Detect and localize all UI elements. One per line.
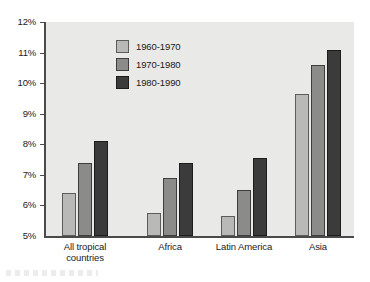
figure: 5%6%7%8%9%10%11%12% 1960-19701970-198019…: [0, 0, 370, 282]
caption-artifact: [6, 270, 98, 276]
bar-3-2: [327, 50, 341, 236]
bar-3-0: [295, 94, 309, 236]
bar-group-3: [0, 22, 308, 236]
x-axis-label-3: Asia: [268, 241, 368, 252]
bar-3-1: [311, 65, 325, 236]
